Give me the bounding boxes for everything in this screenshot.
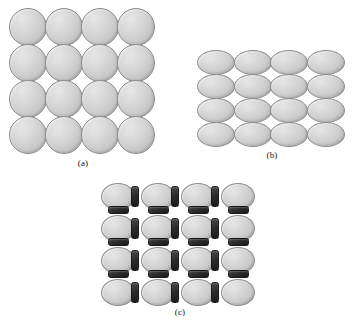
connector-bar-vertical — [171, 282, 179, 303]
particle — [270, 50, 308, 75]
connector-bar-horizontal — [148, 206, 169, 214]
connector-bar-horizontal — [108, 270, 129, 278]
connector-bar-horizontal — [148, 238, 169, 246]
panel-c: (c) — [101, 183, 259, 331]
particle — [307, 50, 345, 75]
connector-bar-vertical — [171, 186, 179, 207]
particle — [197, 74, 235, 99]
particle — [81, 80, 119, 118]
connector-bar-vertical — [131, 282, 139, 303]
figure-root: (a) (b) (c) — [0, 0, 355, 333]
panel-a-caption: (a) — [9, 158, 157, 168]
panel-c-particle-grid — [101, 183, 257, 305]
particle — [117, 80, 155, 118]
particle — [270, 74, 308, 99]
particle — [234, 74, 272, 99]
particle — [270, 122, 308, 147]
particle — [197, 98, 235, 123]
connector-bar-horizontal — [148, 270, 169, 278]
connector-bar-horizontal — [228, 238, 249, 246]
connector-bar-vertical — [211, 186, 219, 207]
particle — [197, 122, 235, 147]
particle — [221, 279, 255, 306]
connector-bar-horizontal — [228, 206, 249, 214]
panel-b-particle-grid — [197, 50, 345, 146]
panel-a: (a) — [9, 8, 157, 176]
particle — [117, 8, 155, 46]
particle — [270, 98, 308, 123]
particle — [117, 44, 155, 82]
connector-bar-vertical — [131, 186, 139, 207]
connector-bar-vertical — [211, 250, 219, 271]
connector-bar-horizontal — [188, 238, 209, 246]
particle — [181, 279, 215, 306]
connector-bar-vertical — [211, 282, 219, 303]
particle — [81, 8, 119, 46]
particle — [45, 80, 83, 118]
panel-c-caption: (c) — [101, 307, 259, 317]
connector-bar-horizontal — [188, 270, 209, 278]
connector-bar-vertical — [171, 250, 179, 271]
particle — [9, 44, 47, 82]
connector-bar-horizontal — [108, 206, 129, 214]
particle — [81, 116, 119, 154]
particle — [101, 279, 135, 306]
particle — [197, 50, 235, 75]
panel-b: (b) — [197, 50, 347, 176]
particle — [45, 8, 83, 46]
particle — [9, 8, 47, 46]
connector-bar-vertical — [171, 218, 179, 239]
connector-bar-vertical — [131, 250, 139, 271]
panel-a-particle-grid — [9, 8, 155, 154]
particle — [307, 122, 345, 147]
particle — [307, 98, 345, 123]
connector-bar-horizontal — [228, 270, 249, 278]
particle — [45, 116, 83, 154]
particle — [234, 50, 272, 75]
connector-bar-vertical — [211, 218, 219, 239]
particle — [234, 98, 272, 123]
connector-bar-horizontal — [188, 206, 209, 214]
particle — [234, 122, 272, 147]
particle — [9, 80, 47, 118]
particle — [307, 74, 345, 99]
particle — [45, 44, 83, 82]
particle — [9, 116, 47, 154]
particle — [81, 44, 119, 82]
particle — [141, 279, 175, 306]
panel-b-caption: (b) — [197, 150, 347, 160]
connector-bar-horizontal — [108, 238, 129, 246]
particle — [117, 116, 155, 154]
connector-bar-vertical — [131, 218, 139, 239]
